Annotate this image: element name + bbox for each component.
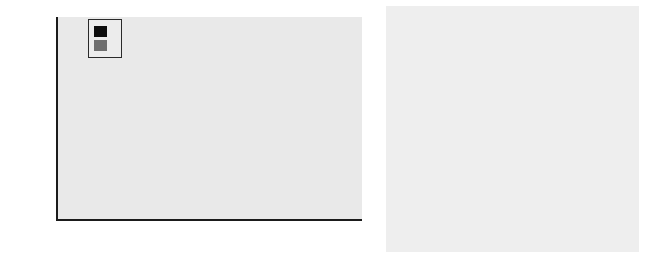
info-panel <box>386 6 639 252</box>
legend-swatch-religious <box>94 26 107 37</box>
y-axis-label <box>14 28 28 210</box>
legend-swatch-secular <box>94 40 107 51</box>
chart-legend <box>88 19 122 58</box>
legend-item-secular <box>94 39 113 52</box>
bar-chart <box>0 0 372 258</box>
legend-item-religious <box>94 25 113 38</box>
figure-root <box>0 0 645 258</box>
